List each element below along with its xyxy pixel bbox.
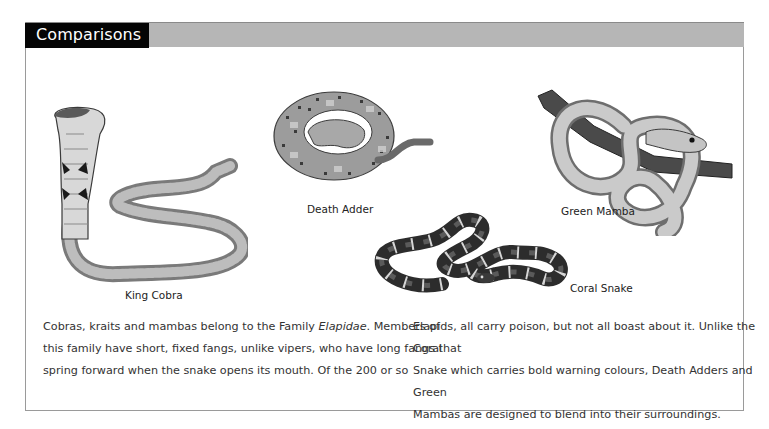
family-name-italic: Elapidae xyxy=(319,320,367,333)
death-adder-illustration xyxy=(268,86,438,191)
body-right-line-1: Elapids, all carry poison, but not all b… xyxy=(413,316,769,360)
section-title-tab: Comparisons xyxy=(25,23,149,48)
coral-snake-illustration xyxy=(372,210,572,294)
caption-green-mamba: Green Mamba xyxy=(561,205,635,217)
caption-king-cobra: King Cobra xyxy=(125,289,183,301)
body-right-line-2: Snake which carries bold warning colours… xyxy=(413,360,769,404)
body-left-line-1: Cobras, kraits and mambas belong to the … xyxy=(43,316,461,338)
king-cobra-illustration xyxy=(48,104,248,284)
body-text-right: Elapids, all carry poison, but not all b… xyxy=(413,316,769,426)
section-header-band: Comparisons xyxy=(26,22,744,47)
body-text-left: Cobras, kraits and mambas belong to the … xyxy=(43,316,461,382)
body-left-line-2: this family have short, fixed fangs, unl… xyxy=(43,338,461,360)
body-right-line-3: Mambas are designed to blend into their … xyxy=(413,404,769,426)
section-title: Comparisons xyxy=(36,25,141,44)
body-left-line-1-pre: Cobras, kraits and mambas belong to the … xyxy=(43,320,319,333)
caption-death-adder: Death Adder xyxy=(307,203,373,215)
body-left-line-3: spring forward when the snake opens its … xyxy=(43,360,461,382)
caption-coral-snake: Coral Snake xyxy=(570,282,633,294)
